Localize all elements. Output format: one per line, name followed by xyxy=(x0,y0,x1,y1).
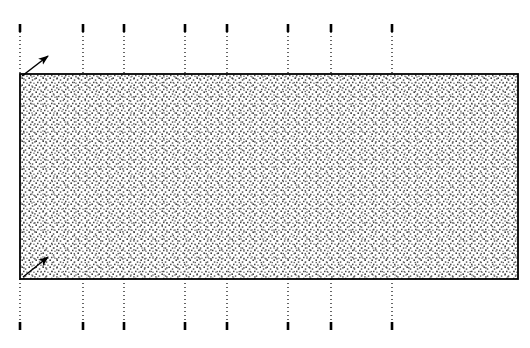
bottom-dotted-leader-lines xyxy=(20,279,392,330)
stippled-rectangle-group xyxy=(20,74,518,279)
diagram-svg xyxy=(0,0,530,348)
figure-canvas xyxy=(0,0,530,348)
top-left-corner-arrow xyxy=(22,56,48,76)
stipple-overlay xyxy=(20,74,518,279)
top-dotted-leader-lines xyxy=(20,24,392,74)
